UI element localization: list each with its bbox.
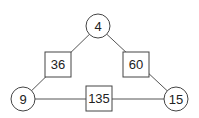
number-triangle-diagram: 36 60 135 4 9 15: [0, 0, 199, 118]
circle-top-label: 4: [94, 19, 101, 34]
circle-right-label: 15: [169, 92, 183, 107]
circle-node-left: 9: [11, 87, 35, 111]
circle-left-label: 9: [19, 92, 26, 107]
square-node-right: 60: [123, 52, 149, 77]
circle-node-top: 4: [86, 14, 110, 38]
circle-node-right: 15: [164, 87, 188, 111]
square-bottom-label: 135: [88, 91, 110, 106]
square-node-bottom: 135: [86, 86, 112, 111]
square-right-label: 60: [129, 57, 143, 72]
square-left-label: 36: [51, 57, 65, 72]
square-node-left: 36: [45, 52, 71, 77]
